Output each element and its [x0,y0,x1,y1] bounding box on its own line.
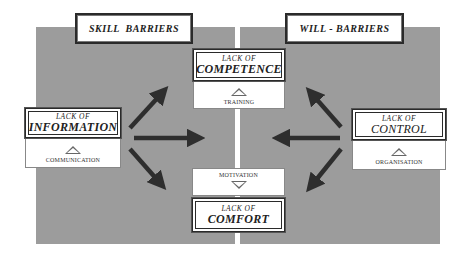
triangle-up-icon [391,148,407,156]
comfort-title-box: LACK OF COMFORT [192,198,285,232]
control-remedy: ORGANISATION [375,159,422,165]
competence-remedy-box: TRAINING [193,81,285,109]
information-remedy: COMMUNICATION [46,157,100,163]
information-remedy-box: COMMUNICATION [25,138,121,168]
node-control: LACK OF CONTROL ORGANISATION [352,109,446,170]
triangle-up-icon [231,88,247,96]
information-line2: INFORMATION [29,121,118,134]
triangle-down-icon [231,181,247,189]
arrow-control-to-competence [312,94,341,127]
triangle-up-icon [65,146,81,154]
information-title-box: LACK OF INFORMATION [25,108,121,138]
control-line2: CONTROL [371,123,427,136]
competence-line2: COMPETENCE [196,63,282,76]
arrow-info-to-competence [130,93,162,128]
node-information: LACK OF INFORMATION COMMUNICATION [25,108,121,168]
control-remedy-box: ORGANISATION [352,140,446,170]
competence-title-box: LACK OF COMPETENCE [193,49,285,81]
arrow-control-to-comfort [312,149,341,185]
comfort-remedy-box: MOTIVATION [192,168,285,196]
competence-remedy: TRAINING [224,99,255,105]
arrow-info-to-comfort [130,149,160,183]
node-comfort: MOTIVATION LACK OF COMFORT [192,168,285,232]
node-competence: LACK OF COMPETENCE TRAINING [193,49,285,109]
comfort-remedy: MOTIVATION [219,172,258,178]
comfort-line2: COMFORT [208,213,269,226]
control-title-box: LACK OF CONTROL [352,109,446,140]
